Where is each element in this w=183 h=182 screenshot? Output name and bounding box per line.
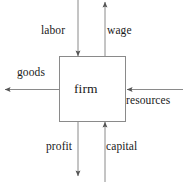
flow-label-goods: goods [17,66,45,78]
flow-label-profit: profit [46,140,72,152]
flow-label-labor: labor [41,24,65,36]
firm-node-label: firm [74,82,98,95]
flow-label-resources: resources [126,94,170,106]
diagram-canvas: firm labor wage goods resources profit c… [0,0,183,182]
flow-label-capital: capital [106,140,137,152]
flow-label-wage: wage [107,24,132,36]
